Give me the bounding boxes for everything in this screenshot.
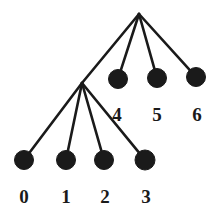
- leaf-node-1-label: 1: [55, 187, 77, 206]
- leaf-node-4[interactable]: [109, 70, 128, 89]
- leaf-node-4-label: 4: [106, 105, 128, 124]
- leaf-node-0[interactable]: [15, 151, 34, 170]
- leaf-node-1[interactable]: [57, 151, 76, 170]
- leaf-node-2[interactable]: [95, 151, 114, 170]
- leaf-node-6-label: 6: [186, 105, 208, 124]
- tree-diagram-figure: 0123456: [0, 0, 221, 215]
- leaf-node-3-label: 3: [135, 187, 157, 206]
- leaf-node-3[interactable]: [135, 150, 155, 170]
- leaf-node-5-label: 5: [146, 105, 168, 124]
- leaf-node-2-label: 2: [94, 187, 116, 206]
- edge-root-to-leaf-4: [120, 14, 139, 72]
- leaf-node-0-label: 0: [13, 187, 35, 206]
- leaf-node-5[interactable]: [148, 69, 167, 88]
- leaf-node-6[interactable]: [187, 68, 206, 87]
